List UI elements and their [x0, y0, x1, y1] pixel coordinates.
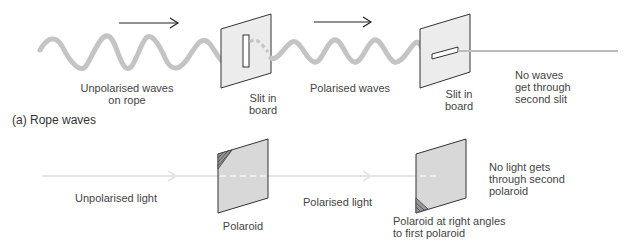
- polarised-rope-wave: [271, 40, 422, 62]
- label-slit-board-1: Slit in board: [238, 92, 288, 116]
- label-line: through second: [489, 173, 565, 185]
- label-line: No light gets: [489, 161, 565, 173]
- direction-arrow-2: [314, 17, 371, 27]
- label-line: Slit in: [238, 92, 288, 104]
- polarised-light-beam: [268, 171, 416, 181]
- label-line: Polaroid: [213, 220, 273, 232]
- label-line: board: [434, 100, 484, 112]
- unpolarised-rope-wave: [40, 36, 226, 69]
- label-line: Polarised waves: [300, 82, 400, 94]
- label-unpolarised-waves: Unpolarised waves on rope: [72, 82, 182, 106]
- label-line: Polarised light: [303, 196, 372, 208]
- caption-rope-waves: (a) Rope waves: [12, 113, 96, 127]
- label-line: get through: [515, 81, 571, 93]
- label-line: to first polaroid: [393, 227, 506, 239]
- label-line: Unpolarised light: [75, 192, 157, 204]
- label-polarised-waves: Polarised waves: [300, 82, 400, 94]
- label-line: No waves: [515, 69, 571, 81]
- unpolarised-light-beam: [42, 171, 218, 181]
- label-no-waves: No waves get through second slit: [515, 69, 571, 105]
- label-line: second slit: [515, 93, 571, 105]
- label-polaroid-1: Polaroid: [213, 220, 273, 232]
- label-line: board: [238, 104, 288, 116]
- label-slit-board-2: Slit in board: [434, 88, 484, 112]
- vertical-slit: [243, 35, 249, 67]
- label-line: Unpolarised waves: [72, 82, 182, 94]
- direction-arrow-1: [119, 18, 178, 28]
- label-line: polaroid: [489, 185, 565, 197]
- label-line: Slit in: [434, 88, 484, 100]
- label-line: on rope: [72, 94, 182, 106]
- label-no-light: No light gets through second polaroid: [489, 161, 565, 197]
- label-polaroid-2: Polaroid at right angles to first polaro…: [393, 215, 506, 239]
- label-polarised-light: Polarised light: [303, 196, 372, 208]
- label-line: Polaroid at right angles: [393, 215, 506, 227]
- label-unpolarised-light: Unpolarised light: [75, 192, 157, 204]
